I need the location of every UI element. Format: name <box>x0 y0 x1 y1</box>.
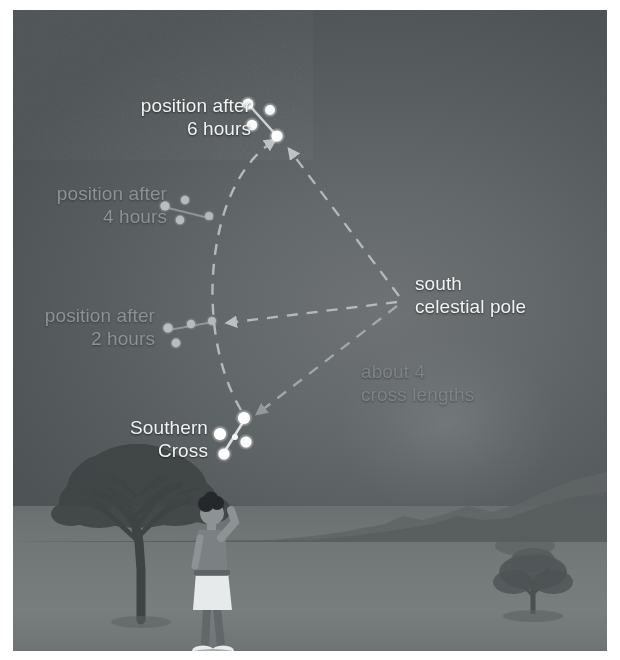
figure-canvas: position after 6 hours position after 4 … <box>0 0 620 660</box>
label-position-6-hours: position after 6 hours <box>91 94 251 140</box>
label-position-4-hours: position after 4 hours <box>17 182 167 228</box>
label-cross-lengths: about 4 cross lengths <box>361 360 536 406</box>
label-southern-cross: Southern Cross <box>73 416 208 462</box>
hill-silhouette <box>13 462 607 542</box>
illustration-plate: position after 6 hours position after 4 … <box>13 10 607 651</box>
label-position-2-hours: position after 2 hours <box>13 304 155 350</box>
label-south-celestial-pole: south celestial pole <box>415 272 595 318</box>
